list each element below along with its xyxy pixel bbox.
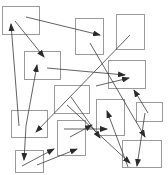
diagram-svg [0, 0, 168, 175]
arrow-4 [26, 65, 37, 126]
box-b2 [76, 19, 104, 55]
arrow-8 [90, 43, 145, 137]
box-b10 [123, 141, 162, 168]
arrow-5 [24, 126, 26, 160]
box-b9 [137, 103, 163, 122]
arrow-1 [26, 17, 100, 35]
arrow-7 [47, 68, 125, 75]
arrow-11 [67, 105, 130, 163]
arrow-12 [137, 113, 145, 166]
box-b11 [16, 151, 44, 173]
box-b6 [12, 111, 48, 138]
diagram-canvas [0, 0, 168, 175]
arrow-6 [36, 35, 130, 132]
boxes-layer [3, 7, 163, 173]
arrows-layer [11, 17, 148, 167]
box-b1 [3, 7, 40, 35]
arrow-9 [96, 78, 129, 86]
box-b8 [97, 100, 125, 136]
arrow-13 [70, 125, 92, 137]
box-b12 [58, 121, 86, 156]
arrow-16 [22, 149, 54, 166]
